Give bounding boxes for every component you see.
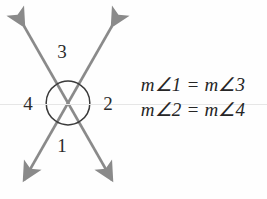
angle-label-2: 2 bbox=[100, 94, 116, 113]
arc-angle-3 bbox=[56, 81, 80, 85]
equation-block: m∠1 = m∠3 m∠2 = m∠4 bbox=[128, 72, 258, 122]
angle-label-3: 3 bbox=[54, 42, 70, 61]
arc-angle-1 bbox=[56, 121, 80, 125]
arc-angle-2 bbox=[80, 85, 90, 121]
angle-label-1: 1 bbox=[54, 136, 70, 155]
equation-line-2: m∠2 = m∠4 bbox=[128, 97, 258, 122]
equation-line-1: m∠1 = m∠3 bbox=[128, 72, 258, 97]
vertical-angles-figure: 3 4 2 1 m∠1 = m∠3 m∠2 = m∠4 bbox=[0, 0, 267, 199]
angle-label-4: 4 bbox=[20, 94, 36, 113]
arc-angle-4 bbox=[46, 85, 56, 121]
